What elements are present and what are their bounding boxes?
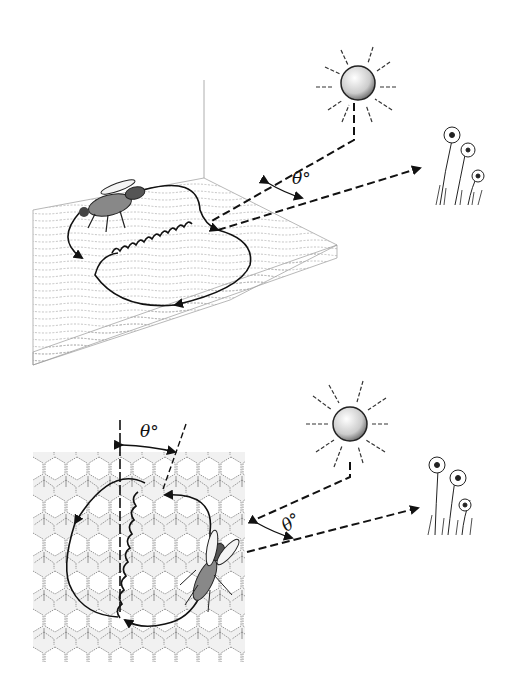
sun-direction-line-comb [250,462,350,522]
wooden-board [33,178,337,365]
flowers-icon [436,127,484,205]
sun-icon-comb [306,381,390,467]
diagram: θ° [0,0,526,698]
comb-angle-arc [122,445,175,452]
comb-angle-label: θ° [140,421,159,441]
food-direction-line [218,168,420,230]
angle-label-comb: θ° [277,508,304,535]
vertical-comb-panel: θ° [33,381,472,662]
food-direction-line-comb [247,508,418,552]
sun-icon [316,47,398,122]
angle-label: θ° [292,168,311,188]
flowers-icon-comb [428,457,472,535]
horizontal-surface-panel: θ° [33,47,484,365]
